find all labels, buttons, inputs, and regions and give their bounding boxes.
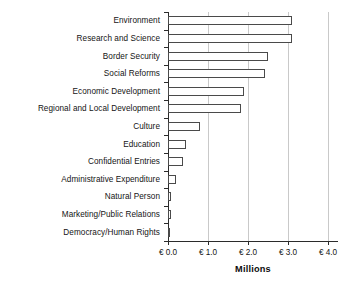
- gridline: [248, 12, 249, 241]
- x-axis-tick-label: € 0.0: [159, 248, 177, 257]
- y-axis-tick: [164, 153, 168, 154]
- y-axis-tick: [164, 206, 168, 207]
- bar: [168, 16, 292, 25]
- y-axis-tick: [164, 30, 168, 31]
- x-axis-tick: [168, 241, 169, 245]
- y-axis-tick: [164, 47, 168, 48]
- x-axis-line: [168, 241, 338, 242]
- y-axis-category-label: Research and Science: [77, 34, 160, 43]
- gridline: [288, 12, 289, 241]
- y-axis-category-label: Confidential Entries: [88, 157, 160, 166]
- bar: [168, 104, 241, 113]
- bar: [168, 52, 268, 61]
- bar: [168, 228, 170, 237]
- bar: [168, 157, 183, 166]
- bar: [168, 34, 292, 43]
- x-axis-tick-label: € 3.0: [279, 248, 297, 257]
- x-axis-tick: [288, 241, 289, 245]
- y-axis-category-label: Regional and Local Development: [38, 104, 160, 113]
- y-axis-tick: [164, 223, 168, 224]
- plot-area: [168, 12, 338, 241]
- y-axis-category-label: Environment: [113, 16, 160, 25]
- y-axis-category-label: Education: [123, 140, 160, 149]
- x-axis-tick: [248, 241, 249, 245]
- bar: [168, 140, 186, 149]
- x-axis-tick: [328, 241, 329, 245]
- y-axis-category-label: Economic Development: [73, 87, 160, 96]
- x-axis-title: Millions: [168, 264, 338, 274]
- x-axis-tick-label: € 4.0: [319, 248, 337, 257]
- y-axis-tick: [164, 12, 168, 13]
- y-axis-category-label: Culture: [133, 122, 160, 131]
- y-axis-category-label: Border Security: [103, 52, 160, 61]
- y-axis-tick: [164, 65, 168, 66]
- bar: [168, 87, 244, 96]
- y-axis-category-label: Administrative Expenditure: [61, 175, 160, 184]
- bar: [168, 175, 176, 184]
- x-axis-tick: [208, 241, 209, 245]
- y-axis-category-labels: EnvironmentResearch and ScienceBorder Se…: [0, 0, 164, 298]
- y-axis-tick: [164, 100, 168, 101]
- y-axis-tick: [164, 188, 168, 189]
- y-axis-category-label: Natural Person: [105, 192, 160, 201]
- gridline: [328, 12, 329, 241]
- bar: [168, 192, 171, 201]
- y-axis-tick: [164, 135, 168, 136]
- y-axis-tick: [164, 118, 168, 119]
- y-axis-tick: [164, 171, 168, 172]
- y-axis-category-label: Democracy/Human Rights: [63, 228, 160, 237]
- bar-chart: EnvironmentResearch and ScienceBorder Se…: [0, 0, 357, 298]
- x-axis-tick-label: € 1.0: [199, 248, 217, 257]
- bar: [168, 122, 200, 131]
- y-axis-category-label: Marketing/Public Relations: [62, 210, 160, 219]
- gridline: [208, 12, 209, 241]
- y-axis-tick: [164, 82, 168, 83]
- bar: [168, 210, 171, 219]
- x-axis-tick-label: € 2.0: [239, 248, 257, 257]
- y-axis-category-label: Social Reforms: [104, 69, 160, 78]
- bar: [168, 69, 265, 78]
